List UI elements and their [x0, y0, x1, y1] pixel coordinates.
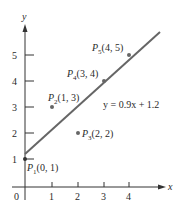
point-p3	[76, 131, 80, 135]
x-tick-1: 1	[49, 191, 54, 202]
point-p1	[23, 157, 27, 161]
scatter-plot: x y 0 1 2 3 4 1 2 3 4 5 P1(0, 1) P2(1, 3…	[0, 0, 176, 211]
x-axis-arrow-icon	[158, 185, 166, 190]
y-tick-3: 3	[12, 102, 17, 113]
point-p4	[102, 79, 106, 83]
label-p5: P5(4, 5)	[91, 42, 123, 56]
point-p5	[127, 53, 131, 57]
label-p1: P1(0, 1)	[26, 162, 58, 176]
y-axis-label: y	[21, 11, 27, 22]
y-tick-2: 2	[12, 128, 17, 139]
x-ticks	[52, 182, 129, 187]
y-axis-arrow-icon	[23, 24, 28, 32]
x-tick-3: 3	[101, 191, 106, 202]
x-tick-4: 4	[126, 191, 131, 202]
x-tick-2: 2	[75, 191, 80, 202]
y-ticks	[25, 55, 34, 159]
equation-label: y = 0.9x + 1.2	[103, 99, 159, 110]
label-p4: P4(3, 4)	[66, 68, 98, 82]
x-tick-0: 0	[14, 191, 19, 202]
y-tick-4: 4	[12, 76, 17, 87]
label-p2: P2(1, 3)	[47, 92, 79, 106]
x-axis-label: x	[167, 181, 173, 192]
y-tick-1: 1	[12, 154, 17, 165]
label-p3: P3(2, 2)	[81, 128, 113, 142]
y-tick-5: 5	[12, 50, 17, 61]
